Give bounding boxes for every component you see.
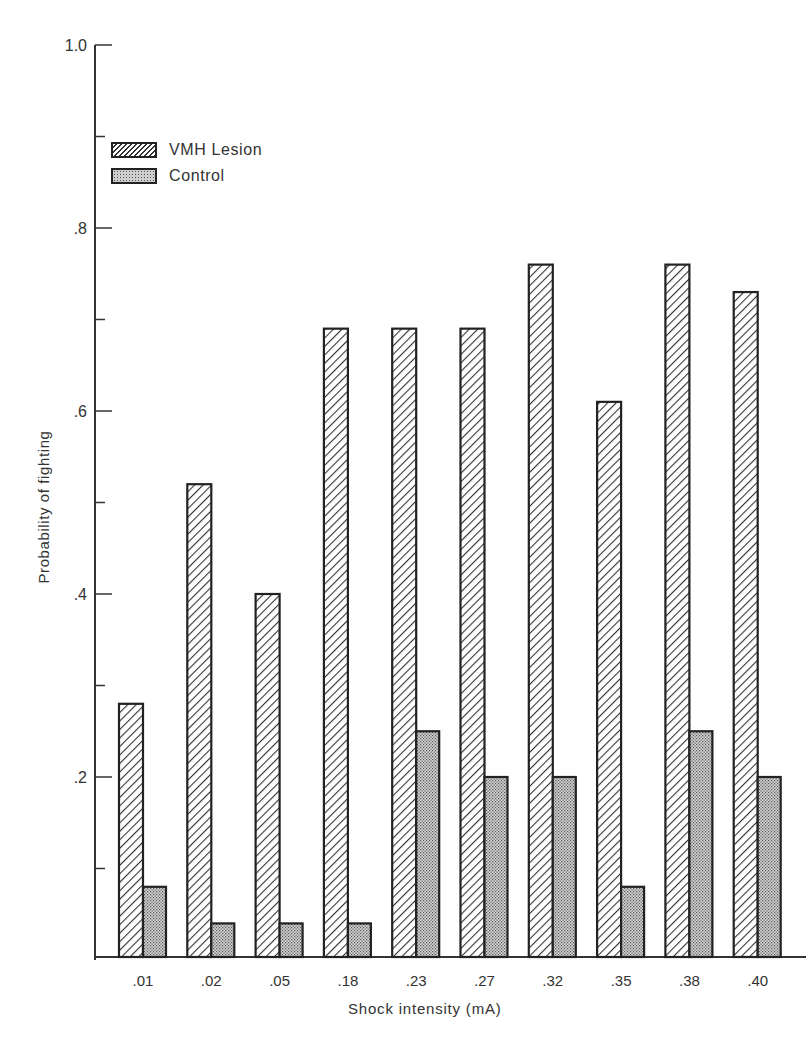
x-axis-label: Shock intensity (mA) — [348, 1000, 502, 1017]
bar-control — [485, 777, 508, 957]
bar-vmh-lesion — [665, 265, 689, 957]
bar-control — [143, 887, 166, 957]
y-tick-label: .4 — [74, 586, 87, 603]
bar-control — [621, 887, 644, 957]
x-tick-label: .01 — [133, 972, 154, 989]
y-tick-label: .6 — [74, 403, 87, 420]
bar-vmh-lesion — [392, 329, 416, 957]
bar-control — [211, 923, 234, 957]
x-tick-label: .38 — [679, 972, 700, 989]
bar-vmh-lesion — [187, 484, 211, 957]
bar-control — [348, 923, 371, 957]
x-tick-label: .40 — [747, 972, 768, 989]
bar-control — [280, 923, 303, 957]
stipple-swatch-icon — [111, 168, 157, 184]
x-tick-label: .35 — [611, 972, 632, 989]
legend: VMH Lesion Control — [111, 137, 262, 189]
legend-label: Control — [169, 167, 225, 185]
bar-control — [553, 777, 576, 957]
x-tick-label: .02 — [201, 972, 222, 989]
legend-item-control: Control — [111, 163, 262, 189]
bar-control — [416, 731, 439, 957]
x-tick-label: .23 — [406, 972, 427, 989]
x-tick-label: .32 — [542, 972, 563, 989]
bar-vmh-lesion — [529, 265, 553, 957]
bar-control — [689, 731, 712, 957]
bar-vmh-lesion — [461, 329, 485, 957]
x-tick-label: .05 — [269, 972, 290, 989]
legend-item-vmh-lesion: VMH Lesion — [111, 137, 262, 163]
y-tick-label: .2 — [74, 769, 87, 786]
x-tick-label: .27 — [474, 972, 495, 989]
bar-vmh-lesion — [597, 402, 621, 957]
hatch-swatch-icon — [111, 142, 157, 158]
y-tick-label: 1.0 — [65, 37, 87, 54]
legend-label: VMH Lesion — [169, 141, 262, 159]
y-axis-label: Probability of fighting — [35, 430, 52, 583]
bar-vmh-lesion — [324, 329, 348, 957]
bar-vmh-lesion — [734, 292, 758, 957]
bar-control — [758, 777, 781, 957]
bars — [119, 265, 781, 957]
y-tick-label: .8 — [74, 220, 87, 237]
bar-vmh-lesion — [256, 594, 280, 957]
bar-vmh-lesion — [119, 704, 143, 957]
x-tick-label: .18 — [337, 972, 358, 989]
